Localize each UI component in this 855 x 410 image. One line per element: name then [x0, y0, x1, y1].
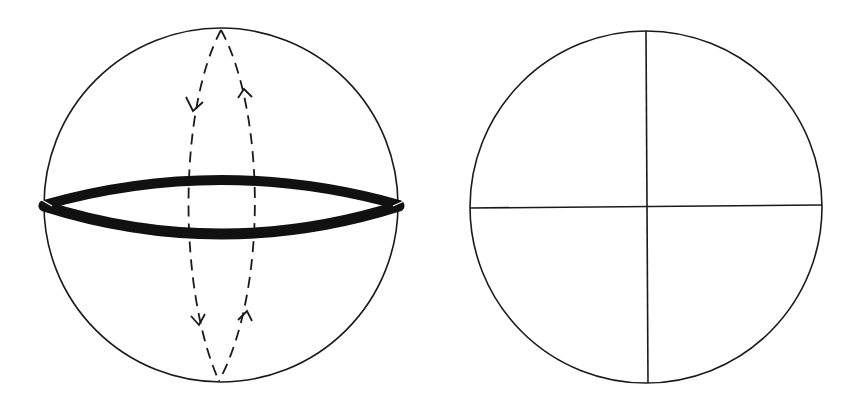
right-quadrant-circle-panel [470, 31, 822, 383]
left-sphere-panel [40, 28, 404, 382]
arrow-lower-left-down-icon [191, 314, 205, 325]
meridian-loop-left-dashed [188, 30, 221, 381]
left-sphere-outline [44, 28, 398, 382]
sphere-diagram-figure [0, 0, 855, 410]
arrow-upper-right-up-icon [238, 89, 252, 98]
equator-band-lower [44, 206, 399, 234]
horizontal-diameter-line [470, 205, 822, 208]
arrow-lower-right-up-icon [238, 311, 252, 321]
arrow-upper-left-down-icon [186, 97, 203, 111]
equator-band-upper [44, 180, 399, 205]
meridian-loop-right-dashed [219, 30, 255, 381]
